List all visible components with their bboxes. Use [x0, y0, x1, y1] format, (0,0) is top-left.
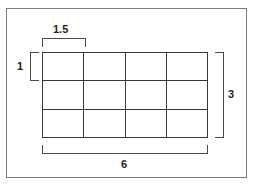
dimension-label-total-width: 6 [121, 159, 127, 170]
grid-cell [43, 110, 84, 138]
grid-cell [43, 53, 84, 81]
dimension-bracket-cell-height [30, 52, 39, 81]
geometry-figure: 1.5 1 3 6 [0, 0, 253, 185]
grid-cell [84, 110, 125, 138]
dimension-label-total-height: 3 [228, 89, 234, 100]
grid-cell [126, 81, 167, 109]
grid-cell [167, 110, 208, 138]
dimension-label-cell-width: 1.5 [53, 24, 68, 35]
grid-cell [126, 53, 167, 81]
grid-cell [167, 53, 208, 81]
rectangle-grid [42, 52, 208, 138]
grid-cell [84, 81, 125, 109]
dimension-bracket-total-height [215, 52, 224, 138]
grid-cell [84, 53, 125, 81]
dimension-bracket-cell-width [42, 38, 86, 47]
grid-cell [126, 110, 167, 138]
grid-cell [167, 81, 208, 109]
dimension-bracket-total-width [42, 145, 208, 154]
dimension-label-cell-height: 1 [17, 61, 23, 72]
grid-cell [43, 81, 84, 109]
